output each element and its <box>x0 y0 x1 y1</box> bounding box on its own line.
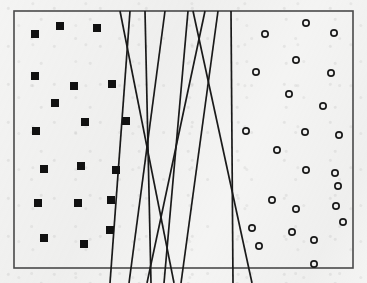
data-point-square <box>74 199 82 207</box>
figure-background <box>0 0 367 283</box>
data-point-square <box>77 162 85 170</box>
data-point-square <box>108 80 116 88</box>
data-point-square <box>40 234 48 242</box>
data-point-square <box>107 196 115 204</box>
data-point-square <box>34 199 42 207</box>
data-point-square <box>70 82 78 90</box>
data-point-square <box>122 117 130 125</box>
data-point-square <box>56 22 64 30</box>
data-point-square <box>32 127 40 135</box>
data-point-square <box>106 226 114 234</box>
data-point-square <box>81 118 89 126</box>
data-point-square <box>93 24 101 32</box>
data-point-square <box>31 72 39 80</box>
data-point-square <box>112 166 120 174</box>
data-point-square <box>51 99 59 107</box>
figure-canvas <box>0 0 367 283</box>
data-point-square <box>40 165 48 173</box>
data-point-square <box>31 30 39 38</box>
data-point-square <box>80 240 88 248</box>
